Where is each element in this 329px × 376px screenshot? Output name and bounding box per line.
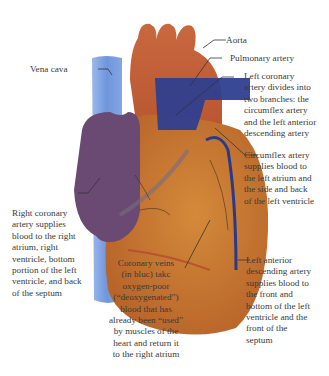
circumflex-label: Circumflex artery supplies blood to the … xyxy=(244,150,314,207)
vena-cava-label: Vena cava xyxy=(30,64,68,75)
left-coronary-label: Left coronary artery divides into two br… xyxy=(244,71,316,139)
left-anterior-label: Left anterior descending artery supplies… xyxy=(246,255,311,346)
aorta-label: Aorta xyxy=(226,35,247,46)
right-coronary-label: Right coronary artery supplies blood to … xyxy=(12,208,82,299)
coronary-veins-label: Coronary veins (in bluc) takc oxygen-poo… xyxy=(96,258,196,361)
right-atrium xyxy=(74,112,140,242)
pulmonary-artery-label: Pulmonary artery xyxy=(230,53,294,64)
